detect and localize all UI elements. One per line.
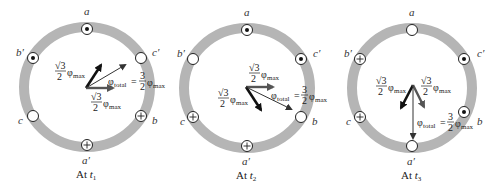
conductor-a-prime-cross <box>82 140 93 151</box>
svg-text:2: 2 <box>220 98 225 109</box>
conductor-c-prime-dot <box>459 54 470 65</box>
svg-text:2: 2 <box>448 122 453 133</box>
slot-label-a-prime: a′ <box>82 154 91 166</box>
conductor-a-dot <box>82 24 93 35</box>
svg-text:3: 3 <box>302 84 307 95</box>
svg-text:3: 3 <box>140 70 145 81</box>
conductor-c-cross <box>355 112 366 123</box>
svg-text:max: max <box>109 103 122 111</box>
caption-t2: At t2 <box>236 169 257 183</box>
svg-text:max: max <box>315 96 328 104</box>
slot-label-c-prime: c′ <box>313 47 321 59</box>
conductor-b-prime-dot <box>28 53 39 64</box>
label-component-upper: √3 2 φ max <box>55 60 86 82</box>
svg-text:total: total <box>277 95 289 103</box>
svg-text:2: 2 <box>423 86 428 97</box>
label-total: φ total = 3 2 φ max <box>271 84 328 106</box>
svg-text:max: max <box>439 87 452 95</box>
caption-t3: At t3 <box>401 169 422 183</box>
svg-text:√3: √3 <box>91 91 102 102</box>
slot-label-a: a <box>409 6 415 18</box>
svg-text:2: 2 <box>57 71 62 82</box>
caption-t1: At t1 <box>76 168 97 182</box>
conductor-c-prime-empty <box>136 53 147 64</box>
slot-label-c-prime: c′ <box>477 47 485 59</box>
slot-label-b-prime: b′ <box>177 47 186 59</box>
svg-text:2: 2 <box>93 102 98 113</box>
svg-text:max: max <box>73 72 86 80</box>
svg-text:total: total <box>114 81 126 89</box>
conductor-b-prime-empty <box>188 54 199 65</box>
svg-text:2: 2 <box>140 81 145 92</box>
conductor-b-cross <box>136 111 147 122</box>
slot-label-b-prime: b′ <box>16 46 25 58</box>
conductor-a-dot <box>242 25 253 36</box>
svg-text:√3: √3 <box>55 60 66 71</box>
conductor-c-cross <box>188 112 199 123</box>
slot-label-a-prime: a′ <box>407 155 416 167</box>
conductor-c-empty <box>28 111 39 122</box>
slot-label-a-prime: a′ <box>242 155 251 167</box>
label-component-lower: √3 2 φ max <box>218 87 249 109</box>
svg-text:=: = <box>131 76 137 87</box>
slot-label-c: c <box>18 114 23 126</box>
svg-text:max: max <box>267 74 280 82</box>
svg-text:total: total <box>423 122 435 130</box>
svg-text:max: max <box>236 99 249 107</box>
label-component-upper: √3 2 φ max <box>249 62 280 84</box>
rotating-field-diagram: a b′ c′ c b a′ √3 2 φ max √3 2 φ max φ t… <box>0 0 501 187</box>
panel-t2: a b′ c′ c b a′ √3 2 φ max √3 2 φ max φ t… <box>177 6 328 183</box>
svg-text:√3: √3 <box>376 75 387 86</box>
slot-label-a: a <box>244 6 250 18</box>
svg-text:√3: √3 <box>218 87 229 98</box>
svg-text:max: max <box>461 123 474 131</box>
conductor-c-prime-dot <box>296 54 307 65</box>
svg-text:=: = <box>294 90 300 101</box>
slot-label-b: b <box>152 114 158 126</box>
slot-label-c: c <box>346 115 351 127</box>
label-component-right: √3 2 φ max <box>421 75 452 97</box>
label-component-left: √3 2 φ max <box>376 75 407 97</box>
svg-text:√3: √3 <box>249 62 260 73</box>
svg-text:2: 2 <box>378 86 383 97</box>
conductor-a-prime-empty <box>407 141 418 152</box>
svg-text:2: 2 <box>251 73 256 84</box>
slot-label-b-prime: b′ <box>344 47 353 59</box>
svg-text:max: max <box>153 82 166 90</box>
svg-text:=: = <box>440 117 446 128</box>
svg-text:2: 2 <box>302 95 307 106</box>
conductor-b-empty <box>296 112 307 123</box>
svg-text:max: max <box>394 87 407 95</box>
panel-t3: a b′ c′ c b a′ √3 2 φ max √3 2 φ max φ t… <box>344 6 485 183</box>
slot-label-c: c <box>180 115 185 127</box>
panel-t1: a b′ c′ c b a′ √3 2 φ max √3 2 φ max φ t… <box>16 5 166 182</box>
conductor-a-prime-cross <box>242 141 253 152</box>
slot-label-b: b <box>312 115 318 127</box>
svg-text:3: 3 <box>448 111 453 122</box>
slot-label-c-prime: c′ <box>152 46 160 58</box>
conductor-b-dot <box>459 107 470 118</box>
conductor-a-empty <box>407 25 418 36</box>
label-total: φ total = 3 2 φ max <box>108 70 166 92</box>
label-component-lower: √3 2 φ max <box>91 91 122 113</box>
slot-label-b: b <box>477 115 483 127</box>
vector-component-60 <box>86 65 101 88</box>
conductor-b-prime-cross <box>355 54 366 65</box>
svg-text:√3: √3 <box>421 75 432 86</box>
slot-label-a: a <box>84 5 90 17</box>
